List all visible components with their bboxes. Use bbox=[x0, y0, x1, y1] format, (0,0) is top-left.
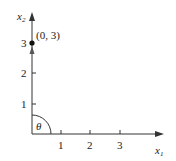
direction-arrow-icon bbox=[30, 46, 35, 54]
x-tick-label-3: 3 bbox=[117, 139, 123, 151]
angle-arc bbox=[32, 115, 51, 134]
x-tick-label-2: 2 bbox=[87, 139, 93, 151]
y-tick-label-1: 1 bbox=[21, 98, 27, 110]
x-tick-label-1: 1 bbox=[58, 139, 64, 151]
y-tick-label-2: 2 bbox=[21, 67, 27, 79]
x-axis-arrow-icon bbox=[155, 131, 164, 137]
point-marker bbox=[29, 40, 34, 45]
diagram: 1 2 3 1 2 3 x1 x2 (0, 3) θ bbox=[0, 0, 176, 161]
y-tick-label-3: 3 bbox=[21, 37, 27, 49]
x-axis-label: x1 bbox=[154, 144, 163, 158]
y-axis-label: x2 bbox=[16, 10, 26, 24]
coordinate-plot: 1 2 3 1 2 3 x1 x2 (0, 3) θ bbox=[0, 0, 176, 161]
point-label: (0, 3) bbox=[36, 29, 60, 42]
y-axis-arrow-icon bbox=[29, 12, 35, 21]
angle-label: θ bbox=[36, 120, 42, 132]
